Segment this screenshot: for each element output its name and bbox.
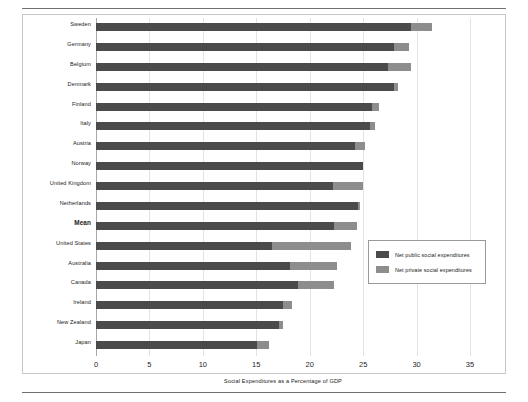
stacked-bar[interactable] [96, 242, 351, 250]
chart-legend: Net public social expenditures Net priva… [368, 240, 486, 284]
stacked-bar[interactable] [96, 63, 411, 71]
stacked-bar[interactable] [96, 301, 292, 309]
bar-segment-private [283, 301, 292, 309]
stacked-bar[interactable] [96, 23, 432, 31]
category-label: United States [56, 238, 91, 248]
bar-segment-private [355, 142, 366, 150]
stacked-bar[interactable] [96, 202, 360, 210]
bar-segment-public [96, 301, 283, 309]
bar-row[interactable]: Italy [96, 117, 470, 137]
stacked-bar[interactable] [96, 341, 269, 349]
legend-swatch-private-icon [376, 266, 389, 273]
bar-segment-private [372, 103, 379, 111]
bar-segment-private [411, 23, 431, 31]
bar-segment-public [96, 202, 358, 210]
bar-row[interactable]: Norway [96, 157, 470, 177]
bar-segment-public [96, 43, 394, 51]
legend-item-private: Net private social expenditures [376, 262, 478, 277]
bar-segment-private [334, 222, 356, 230]
legend-label-private: Net private social expenditures [395, 267, 472, 273]
bar-segment-private [394, 83, 398, 91]
bar-row[interactable]: United Kingdom [96, 177, 470, 197]
gridline-35 [470, 18, 471, 356]
bar-segment-public [96, 321, 279, 329]
x-tick-label: 0 [94, 360, 98, 369]
x-tick-label: 35 [466, 360, 474, 369]
stacked-bar[interactable] [96, 162, 363, 170]
x-axis-title: Social Expenditures as a Percentage of G… [96, 378, 470, 384]
category-label: Mean [74, 218, 91, 228]
bar-segment-private [394, 43, 409, 51]
bar-row[interactable]: Austria [96, 137, 470, 157]
bar-row[interactable]: Denmark [96, 78, 470, 98]
bottom-divider-rule [22, 392, 506, 393]
category-label: New Zealand [57, 317, 91, 327]
x-tick-label: 30 [412, 360, 420, 369]
bar-segment-public [96, 122, 370, 130]
bar-segment-public [96, 63, 388, 71]
bar-row[interactable]: Sweden [96, 18, 470, 38]
top-divider-rule [22, 8, 506, 9]
category-label: Australia [68, 258, 91, 268]
stacked-bar[interactable] [96, 182, 363, 190]
legend-label-public: Net public social expenditures [395, 252, 470, 258]
stacked-bar[interactable] [96, 122, 375, 130]
stacked-bar[interactable] [96, 43, 409, 51]
x-tick-label: 5 [147, 360, 151, 369]
x-tick-label: 15 [252, 360, 260, 369]
bar-segment-private [333, 182, 363, 190]
stacked-bar[interactable] [96, 103, 379, 111]
bar-segment-private [290, 262, 337, 270]
bar-segment-private [279, 321, 283, 329]
chart-page: SwedenGermanyBelgiumDenmarkFinlandItalyA… [0, 0, 528, 402]
bar-row[interactable]: Ireland [96, 296, 470, 316]
category-label: United Kingdom [50, 178, 91, 188]
bar-row[interactable]: Finland [96, 98, 470, 118]
category-label: Belgium [70, 59, 91, 69]
bar-segment-private [370, 122, 375, 130]
legend-swatch-public-icon [376, 251, 389, 258]
legend-item-public: Net public social expenditures [376, 247, 478, 262]
category-label: Denmark [68, 79, 91, 89]
bar-segment-public [96, 182, 333, 190]
category-label: Norway [71, 158, 91, 168]
bar-segment-public [96, 162, 363, 170]
category-label: Netherlands [60, 198, 91, 208]
bar-row[interactable]: Germany [96, 38, 470, 58]
x-tick-label: 20 [306, 360, 314, 369]
bar-segment-private [272, 242, 351, 250]
category-label: Canada [71, 277, 91, 287]
category-label: Finland [72, 99, 91, 109]
stacked-bar[interactable] [96, 262, 337, 270]
bar-row[interactable]: New Zealand [96, 316, 470, 336]
bar-segment-private [257, 341, 269, 349]
category-label: Japan [75, 337, 91, 347]
bar-segment-public [96, 341, 257, 349]
stacked-bar[interactable] [96, 281, 334, 289]
category-label: Austria [73, 138, 91, 148]
plot-area: SwedenGermanyBelgiumDenmarkFinlandItalyA… [96, 18, 470, 356]
x-tick-label: 25 [359, 360, 367, 369]
stacked-bar[interactable] [96, 142, 365, 150]
bar-segment-public [96, 281, 298, 289]
bar-segment-public [96, 242, 272, 250]
bar-row[interactable]: Belgium [96, 58, 470, 78]
x-axis-ticks: 05101520253035 [96, 360, 470, 376]
bar-segment-public [96, 262, 290, 270]
stacked-bar[interactable] [96, 321, 283, 329]
bar-segment-public [96, 83, 394, 91]
stacked-bar[interactable] [96, 83, 398, 91]
x-tick-label: 10 [199, 360, 207, 369]
bar-segment-private [298, 281, 334, 289]
category-label: Ireland [73, 297, 91, 307]
bar-row[interactable]: Japan [96, 336, 470, 356]
bar-segment-public [96, 103, 372, 111]
bar-row[interactable]: Netherlands [96, 197, 470, 217]
stacked-bar[interactable] [96, 222, 357, 230]
bar-segment-public [96, 142, 355, 150]
category-label: Sweden [70, 19, 91, 29]
bar-segment-private [388, 63, 412, 71]
bar-row[interactable]: Mean [96, 217, 470, 237]
category-label: Italy [80, 118, 91, 128]
bar-segment-public [96, 23, 411, 31]
